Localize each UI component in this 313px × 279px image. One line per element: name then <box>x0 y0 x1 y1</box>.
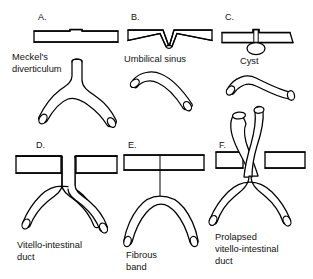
panel-c-bowel-loop <box>225 76 296 101</box>
panel-a: A. Meckel's diverticulum <box>12 12 118 129</box>
panel-d: D. Vitello-intestinal duct <box>16 140 117 262</box>
panel-d-caption-line2: duct <box>17 252 35 262</box>
panel-a-caption-line1: Meckel's <box>12 52 48 62</box>
panel-e: E. Fibrous band <box>123 140 204 272</box>
panel-f-abdominal-wall <box>216 152 305 168</box>
panel-a-caption-line2: diverticulum <box>12 64 62 74</box>
panel-e-caption-line2: band <box>126 262 147 272</box>
panel-a-letter: A. <box>38 12 47 22</box>
panel-d-letter: D. <box>36 140 45 150</box>
panel-f-caption-line2: vitello-intestinal <box>215 244 279 254</box>
panel-c-cyst <box>247 43 265 55</box>
panel-c-abdominal-wall <box>222 30 293 55</box>
panel-f-caption-line1: Prolapsed <box>215 232 257 242</box>
panel-e-abdominal-wall <box>124 155 204 170</box>
panel-e-letter: E. <box>128 140 137 150</box>
panel-c-caption-line1: Cyst <box>240 56 259 66</box>
panel-b-abdominal-wall <box>128 30 212 48</box>
panel-f: F. Prolapsed vitello-intestinal duct <box>207 106 305 266</box>
panel-b: B. Umbilical sinus <box>124 12 212 112</box>
panel-a-abdominal-wall <box>34 30 118 43</box>
panel-d-caption-line1: Vitello-intestinal <box>17 240 82 250</box>
panel-c: C. Cyst <box>222 12 295 101</box>
panel-f-letter: F. <box>219 140 226 150</box>
panel-b-caption-line1: Umbilical sinus <box>124 54 186 64</box>
panel-c-letter: C. <box>225 12 234 22</box>
figure-root: A. Meckel's diverticulum B. Umbilical si… <box>0 0 313 279</box>
panel-e-caption-line1: Fibrous <box>126 250 157 260</box>
panel-b-letter: B. <box>131 12 140 22</box>
panel-e-bowel-loop <box>123 196 199 247</box>
vitello-intestinal-duct-anomalies-figure: A. Meckel's diverticulum B. Umbilical si… <box>0 0 313 279</box>
panel-f-caption-line3: duct <box>215 256 233 266</box>
panel-d-abdominal-wall <box>16 156 117 173</box>
panel-b-bowel-loop <box>129 72 193 112</box>
